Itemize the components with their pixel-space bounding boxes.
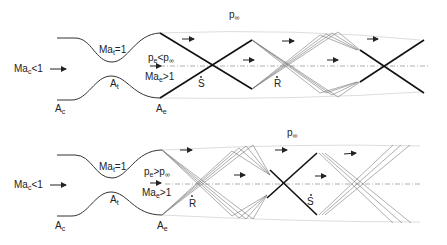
bottom-exit-area-label: Ae xyxy=(157,221,168,232)
top-inlet-area-label: Ac xyxy=(55,104,65,115)
shock-2b xyxy=(360,40,424,82)
expansion-fan-top xyxy=(252,32,360,97)
bottom-throat-mach-label: Mat=1 xyxy=(99,162,126,173)
top-exit-mach-label: Mae>1 xyxy=(145,72,174,83)
shock-1b xyxy=(160,40,252,98)
jet-boundary-lower xyxy=(162,215,420,222)
top-inlet-mach-label: Mac<1 xyxy=(14,64,43,75)
nozzle-flow-diagram xyxy=(0,0,447,245)
bottom-exit-mach-label: Mae>1 xyxy=(142,188,171,199)
shock-a xyxy=(270,170,317,215)
bottom-reflection-marker-R: R xyxy=(189,199,196,209)
jet-boundary-upper xyxy=(162,145,420,150)
bottom-inlet-area-label: Ac xyxy=(55,221,65,232)
bottom-panel xyxy=(50,145,420,223)
top-panel xyxy=(50,32,430,100)
shock-2a xyxy=(360,50,424,93)
top-pressure-condition-label: pe<p∞ xyxy=(148,53,174,64)
top-throat-mach-label: Mat=1 xyxy=(99,45,126,56)
bottom-pressure-condition-label: pe>p∞ xyxy=(144,167,170,178)
bottom-shock-marker-S: S xyxy=(307,197,314,207)
bottom-throat-area-label: At xyxy=(110,195,119,206)
jet-boundary-lower xyxy=(160,92,420,98)
bottom-ambient-pressure-label: p∞ xyxy=(287,128,298,139)
expansion-fan-1 xyxy=(162,145,270,219)
jet-boundary-upper xyxy=(160,32,420,40)
bottom-inlet-mach-label: Mac<1 xyxy=(14,180,43,191)
flow-arrow xyxy=(344,153,356,154)
top-ambient-pressure-label: p∞ xyxy=(229,10,240,21)
top-throat-area-label: At xyxy=(110,79,119,90)
top-shock-marker-S: S xyxy=(198,79,205,89)
top-reflection-marker-R: R xyxy=(274,79,281,89)
top-exit-area-label: Ae xyxy=(156,104,167,115)
